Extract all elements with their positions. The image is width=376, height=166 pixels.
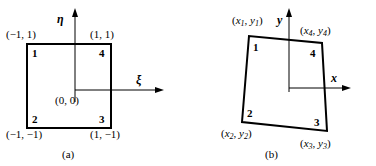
panel-b-node2-x-subscript: 2 xyxy=(230,132,234,141)
figure-container: η ξ (−1, 1) (1, 1) (−1, −1) (1, −1) (0, … xyxy=(0,0,376,166)
panel-b-y-axis xyxy=(286,8,292,92)
panel-a-corner-label-top-right: (1, 1) xyxy=(90,29,114,40)
panel-a-node-2: 2 xyxy=(32,114,38,125)
panel-a-node-4: 4 xyxy=(99,48,105,59)
panel-a-eta-axis xyxy=(72,8,78,102)
panel-b-node-3: 3 xyxy=(314,117,320,128)
panel-b-node3-x-subscript: 3 xyxy=(309,142,313,151)
panel-a-xi-axis xyxy=(75,87,164,93)
panel-b-node2-y-subscript: 2 xyxy=(244,132,248,141)
panel-b-corner-label-node1: (x1, y1) xyxy=(232,15,263,28)
panel-b-x-axis-label: x xyxy=(331,72,337,84)
panel-b-node3-y-subscript: 3 xyxy=(323,142,327,151)
panel-a-corner-label-bottom-left: (−1, −1) xyxy=(6,129,42,140)
panel-a-origin-label: (0, 0) xyxy=(55,95,79,106)
panel-a-node-1: 1 xyxy=(32,48,38,59)
panel-b-corner-label-node2: (x2, y2) xyxy=(221,128,252,141)
panel-b-node4-y-subscript: 4 xyxy=(323,29,327,38)
panel-a-node-3: 3 xyxy=(99,114,105,125)
panel-b-node-4: 4 xyxy=(310,48,316,59)
panel-a-xi-axis-label: ξ xyxy=(136,74,141,86)
panel-b-node-2: 2 xyxy=(247,108,253,119)
panel-a-caption: (a) xyxy=(62,149,74,160)
panel-a-corner-label-top-left: (−1, 1) xyxy=(6,29,36,40)
panel-b-corner-label-node3: (x3, y3) xyxy=(300,138,331,151)
panel-b-node-1: 1 xyxy=(253,42,259,53)
panel-b-caption: (b) xyxy=(265,149,278,160)
panel-b-node1-y-subscript: 1 xyxy=(255,19,259,28)
panel-b-y-axis-label: y xyxy=(277,14,282,26)
panel-b-node1-x-subscript: 1 xyxy=(241,19,245,28)
panel-a-eta-axis-label: η xyxy=(57,13,64,25)
panel-b-corner-label-node4: (x4, y4) xyxy=(300,25,331,38)
panel-b-node4-x-subscript: 4 xyxy=(309,29,313,38)
panel-b-x-axis xyxy=(289,85,351,91)
panel-a-corner-label-bottom-right: (1, −1) xyxy=(90,129,120,140)
